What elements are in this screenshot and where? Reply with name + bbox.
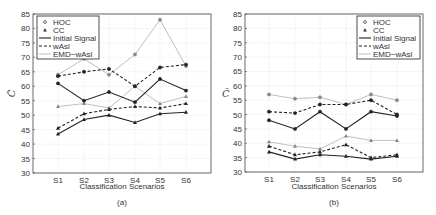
- series-line: [269, 94, 397, 104]
- series-line: [58, 65, 186, 87]
- data-point-circle: [133, 53, 136, 56]
- data-point-circle: [133, 85, 136, 88]
- data-point-circle: [267, 110, 270, 113]
- y-tick-label: 60: [233, 82, 242, 91]
- data-point-circle: [369, 98, 372, 101]
- y-tick-label: 40: [21, 140, 30, 149]
- data-point-circle: [318, 96, 321, 99]
- data-point-circle: [293, 127, 296, 130]
- series-line: [58, 112, 186, 134]
- y-tick-label: 40: [233, 139, 242, 148]
- y-tick-label: 70: [233, 53, 242, 62]
- data-point-circle: [107, 73, 110, 76]
- y-tick-label: 80: [21, 24, 30, 33]
- data-point-circle: [158, 77, 161, 80]
- data-point-circle: [344, 103, 347, 106]
- y-tick-label: 85: [21, 10, 30, 19]
- data-point-circle: [395, 113, 398, 116]
- data-point-circle: [318, 103, 321, 106]
- y-tick-label: 30: [21, 169, 30, 178]
- data-point-triangle: [184, 101, 188, 105]
- data-point-circle: [184, 89, 187, 92]
- data-point-circle: [267, 93, 270, 96]
- series-line: [58, 79, 186, 102]
- x-tick-label: S6: [181, 176, 191, 185]
- x-tick-label: S2: [290, 175, 300, 184]
- data-point-circle: [56, 82, 59, 85]
- data-point-circle: [344, 127, 347, 130]
- y-tick-label: 55: [21, 97, 30, 106]
- y-tick-label: 50: [233, 111, 242, 120]
- data-point-circle: [56, 74, 59, 77]
- series-line: [269, 136, 397, 149]
- y-tick-label: 65: [233, 67, 242, 76]
- y-tick-label: 50: [21, 111, 30, 120]
- x-tick-label: S1: [53, 176, 63, 185]
- data-point-triangle: [107, 113, 111, 117]
- data-point-circle: [395, 98, 398, 101]
- chart-panel-a: 303540455055606570758085S1S2S3S4S5S6HOCC…: [21, 10, 211, 185]
- data-point-circle: [158, 18, 161, 21]
- y-tick-label: 35: [233, 154, 242, 163]
- legend: HOCCCInitial SignalwAslEMD−wAsl: [357, 16, 420, 59]
- data-point-circle: [158, 66, 161, 69]
- y-tick-label: 55: [233, 96, 242, 105]
- data-point-circle: [133, 100, 136, 103]
- data-point-triangle: [267, 140, 271, 144]
- data-point-triangle: [184, 94, 188, 98]
- data-point-circle: [107, 90, 110, 93]
- data-point-circle: [369, 93, 372, 96]
- x-tick-label: S3: [104, 176, 114, 185]
- y-tick-label: 75: [233, 39, 242, 48]
- data-point-circle: [293, 111, 296, 114]
- x-tick-label: S5: [366, 175, 376, 184]
- figure: 303540455055606570758085S1S2S3S4S5S6HOCC…: [0, 0, 436, 215]
- data-point-triangle: [267, 144, 271, 148]
- legend-label: EMD−wAsl: [53, 50, 93, 59]
- x-tick-label: S2: [79, 176, 89, 185]
- y-tick-label: 75: [21, 39, 30, 48]
- data-point-triangle: [344, 134, 348, 138]
- x-tick-label: S6: [392, 175, 402, 184]
- y-tick-label: 80: [233, 24, 242, 33]
- legend: HOCCCInitial SignalwAslEMD−wAsl: [37, 16, 99, 59]
- data-point-circle: [369, 110, 372, 113]
- chart-panel-b: 303540455055606570758085S1S2S3S4S5S6HOCC…: [233, 10, 423, 184]
- data-point-circle: [82, 99, 85, 102]
- data-point-circle: [293, 97, 296, 100]
- data-point-circle: [184, 63, 187, 66]
- y-tick-label: 60: [21, 82, 30, 91]
- y-tick-label: 85: [233, 10, 242, 19]
- x-tick-label: S1: [264, 175, 274, 184]
- y-tick-label: 65: [21, 68, 30, 77]
- data-point-circle: [107, 67, 110, 70]
- x-tick-label: S3: [315, 175, 325, 184]
- y-tick-label: 70: [21, 53, 30, 62]
- data-point-circle: [82, 70, 85, 73]
- series-line: [58, 104, 186, 129]
- x-tick-label: S5: [155, 176, 165, 185]
- data-point-circle: [267, 119, 270, 122]
- x-tick-label: S4: [341, 175, 351, 184]
- y-tick-label: 45: [233, 125, 242, 134]
- legend-label: EMD−wAsl: [373, 50, 413, 59]
- data-point-triangle: [267, 150, 271, 154]
- y-tick-label: 35: [21, 155, 30, 164]
- y-tick-label: 45: [21, 126, 30, 135]
- data-point-circle: [318, 110, 321, 113]
- x-tick-label: S4: [130, 176, 140, 185]
- data-point-triangle: [344, 143, 348, 147]
- y-tick-label: 30: [233, 168, 242, 177]
